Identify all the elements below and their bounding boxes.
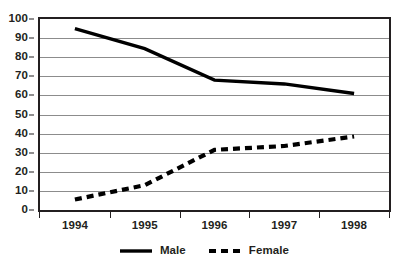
y-axis-tick-label: 60 [15,90,28,102]
solid-line-swatch [119,246,153,256]
y-axis-tick-label: 30 [15,147,28,159]
legend-label: Male [160,245,186,257]
y-tick-mark [29,19,34,20]
x-tick-mark [39,212,40,218]
y-axis-tick-label: 70 [15,71,28,83]
x-axis-tick-label: 1998 [341,220,367,232]
y-tick-mark [29,171,34,172]
y-tick-mark [29,76,34,77]
y-tick-mark [29,114,34,115]
x-axis: 19941995199619971998 [38,220,391,236]
series-line-female [75,136,354,199]
y-axis-tick-label: 10 [15,185,28,197]
legend-entry-female[interactable]: Female [208,245,289,257]
legend-entry-male[interactable]: Male [119,245,186,257]
y-tick-mark [29,133,34,134]
x-tick-mark [180,212,181,218]
y-axis-tick-label: 90 [15,32,28,44]
y-axis-tick-label: 50 [15,109,28,121]
y-axis-tick-label: 40 [15,128,28,140]
x-tick-mark [319,212,320,218]
series-layer [38,17,391,212]
x-axis-tick-label: 1995 [132,220,158,232]
x-tick-mark [110,212,111,218]
y-tick-mark [29,190,34,191]
y-axis-tick-label: 100 [9,13,29,25]
y-tick-mark [29,38,34,39]
legend-label: Female [249,245,289,257]
x-axis-tick-label: 1997 [271,220,297,232]
dashed-line-swatch [208,246,242,256]
y-tick-mark [29,152,34,153]
line-chart: 1009080706050403020100 19941995199619971… [0,0,408,267]
chart-legend: MaleFemale [0,241,408,261]
y-axis: 1009080706050403020100 [0,17,34,212]
x-tick-mark [389,212,390,218]
y-axis-tick-label: 0 [22,204,29,216]
y-tick-mark [29,57,34,58]
y-tick-mark [29,210,34,211]
series-line-male [75,29,354,94]
y-tick-mark [29,95,34,96]
x-axis-tick-label: 1994 [62,220,88,232]
x-axis-ticks [38,212,391,219]
y-axis-tick-label: 20 [15,166,28,178]
x-axis-tick-label: 1996 [202,220,228,232]
x-tick-mark [249,212,250,218]
y-axis-tick-label: 80 [15,51,28,63]
